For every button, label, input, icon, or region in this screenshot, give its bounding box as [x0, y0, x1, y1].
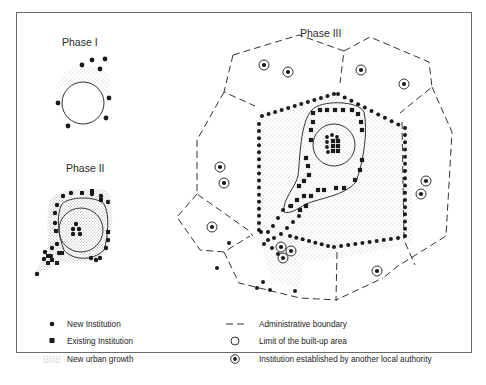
existing-institution-square — [331, 144, 335, 148]
existing-institution-square — [360, 158, 364, 162]
new-institution-dot — [56, 101, 61, 106]
new-institution-dot — [403, 220, 407, 224]
new-institution-dot — [260, 114, 264, 118]
new-institution-dot — [257, 136, 261, 140]
phase-3-title: Phase III — [300, 27, 341, 39]
legend-item-new-institution: New Institution — [50, 320, 121, 329]
phase-2-title: Phase II — [66, 162, 105, 174]
new-institution-dot — [332, 245, 336, 249]
new-institution-dot — [94, 258, 98, 262]
other-authority-institution — [219, 178, 229, 188]
legend-label: New Institution — [67, 320, 121, 329]
phase-1-title: Phase I — [62, 36, 98, 48]
new-institution-dot — [74, 222, 78, 226]
new-institution-dot — [257, 221, 261, 225]
existing-institution-square — [322, 188, 326, 192]
new-institution-dot — [396, 236, 400, 240]
new-institution-dot — [98, 256, 102, 260]
new-institution-dot — [339, 244, 343, 248]
new-institution-dot — [257, 207, 261, 211]
new-institution-dot — [106, 200, 110, 204]
other-authority-institution — [207, 222, 217, 232]
legend-item-new-urban-growth: New urban growth — [43, 355, 134, 364]
new-institution-dot — [390, 119, 394, 123]
new-institution-dot — [346, 243, 350, 247]
new-institution-dot — [403, 140, 407, 144]
new-institution-dot — [43, 250, 47, 254]
new-institution-dot — [353, 242, 357, 246]
new-institution-dot — [307, 239, 311, 243]
new-institution-dot — [257, 122, 261, 126]
new-institution-dot — [266, 238, 270, 242]
new-institution-dot — [325, 135, 329, 139]
existing-institution-square — [341, 108, 345, 112]
new-institution-dot — [257, 200, 261, 204]
new-institution-dot — [363, 106, 367, 110]
new-institution-dot — [403, 133, 407, 137]
other-authority-institution — [372, 266, 382, 276]
legend-item-administrative-boundary: Administrative boundary — [226, 320, 348, 329]
phase-2-diagram: Phase II — [34, 162, 112, 278]
new-institution-dot — [325, 94, 329, 98]
existing-institution-square — [334, 186, 338, 190]
new-institution-dot — [261, 280, 265, 284]
new-institution-dot — [276, 216, 280, 220]
new-institution-dot — [288, 234, 292, 238]
new-institution-dot — [61, 194, 65, 198]
existing-institution-square — [336, 149, 340, 153]
new-institution-dot — [325, 140, 329, 144]
stipple-icon — [43, 356, 60, 363]
existing-institution-square — [90, 189, 94, 193]
new-institution-dot — [326, 150, 330, 154]
new-institution-dot — [257, 179, 261, 183]
existing-institution-square — [360, 128, 364, 132]
existing-institution-square — [311, 111, 315, 115]
existing-institution-square — [336, 139, 340, 143]
new-institution-dot — [335, 135, 339, 139]
existing-institution-square — [306, 164, 310, 168]
new-institution-dot — [257, 171, 261, 175]
new-institution-dot — [376, 112, 380, 116]
legend-label: Limit of the built-up area — [259, 337, 347, 346]
new-institution-dot — [257, 150, 261, 154]
new-institution-dot — [262, 242, 266, 246]
existing-institution-square — [60, 251, 64, 255]
new-institution-dot — [403, 184, 407, 188]
existing-institution-square — [80, 191, 84, 195]
existing-institution-square — [307, 173, 311, 177]
legend-item-builtup-limit: Limit of the built-up area — [231, 337, 347, 346]
existing-institution-square — [99, 198, 103, 202]
existing-institution-square — [302, 194, 306, 198]
new-institution-dot — [349, 99, 353, 103]
existing-institution-square — [331, 149, 335, 153]
new-institution-dot — [403, 176, 407, 180]
other-authority-institution — [259, 60, 269, 70]
existing-institution-square — [350, 108, 354, 112]
new-institution-dot — [55, 203, 59, 207]
new-institution-dot — [257, 164, 261, 168]
existing-institution-square — [356, 112, 360, 116]
new-institution-dot — [403, 198, 407, 202]
admin-boundary — [344, 37, 432, 113]
phase-1-builtup-limit — [62, 82, 104, 124]
other-authority-institution — [356, 65, 366, 75]
new-institution-dot — [80, 63, 85, 68]
new-institution-dot — [343, 95, 347, 99]
new-institution-dot — [78, 232, 82, 236]
existing-institution-square — [298, 208, 302, 212]
new-institution-dot — [293, 289, 297, 293]
new-institution-dot — [403, 234, 407, 238]
existing-institution-square — [46, 261, 50, 265]
existing-institution-icon — [50, 338, 55, 343]
new-institution-dot — [90, 58, 95, 63]
new-institution-dot — [71, 227, 75, 231]
new-institution-dot — [268, 288, 272, 292]
existing-institution-square — [358, 168, 362, 172]
new-institution-dot — [319, 96, 323, 100]
new-institution-dot — [53, 221, 57, 225]
new-institution-dot — [403, 126, 407, 130]
new-institution-dot — [356, 102, 360, 106]
new-institution-dot — [106, 238, 110, 242]
ringed-dot-center — [233, 357, 237, 361]
new-institution-dot — [403, 155, 407, 159]
